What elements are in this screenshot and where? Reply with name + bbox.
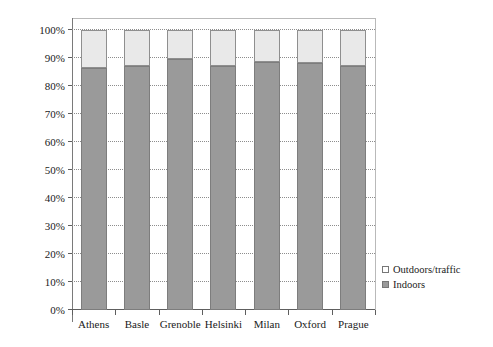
bar-segment-outdoors[interactable] [210,30,236,66]
legend-item-label: Outdoors/traffic [393,264,460,275]
y-axis-tick-label: 60% [45,136,65,148]
bar-segment-outdoors[interactable] [81,30,107,68]
legend-item[interactable]: Outdoors/traffic [382,262,460,277]
bar-segment-indoors[interactable] [340,66,366,310]
bar-segment-outdoors[interactable] [167,30,193,59]
bar-slot: Oxford [288,30,331,310]
stacked-bar[interactable] [340,30,366,310]
stacked-bar[interactable] [81,30,107,310]
y-axis-tick-label: 0% [50,304,65,316]
x-axis-tick-label: Athens [78,318,109,330]
bar-segment-outdoors[interactable] [340,30,366,66]
bar-segment-outdoors[interactable] [297,30,323,63]
y-axis-tick-label: 90% [45,52,65,64]
x-axis-tick-label: Basle [125,318,149,330]
stacked-bar[interactable] [167,30,193,310]
x-axis-tick-mark [288,310,289,315]
x-axis-tick-mark [72,310,73,315]
plot-area: 0%10%20%30%40%50%60%70%80%90%100% Athens… [72,30,375,310]
x-axis-tick-mark [375,310,376,315]
y-axis-tick-label: 50% [45,164,65,176]
x-axis-tick-mark [245,310,246,315]
bar-segment-indoors[interactable] [167,59,193,310]
x-axis-tick-label: Oxford [294,318,326,330]
x-axis-tick-mark [159,310,160,315]
bar-segment-indoors[interactable] [254,62,280,310]
y-axis-tick-label: 100% [39,24,65,36]
bar-slot: Helsinki [202,30,245,310]
x-axis-tick-mark [115,310,116,315]
bar-slot: Prague [332,30,375,310]
bar-segment-outdoors[interactable] [254,30,280,62]
y-axis-tick-label: 30% [45,220,65,232]
legend-swatch-icon [382,266,389,273]
bar-slot: Grenoble [159,30,202,310]
y-axis-tick-label: 70% [45,108,65,120]
x-axis-tick-mark [332,310,333,315]
y-axis-tick-label: 10% [45,276,65,288]
y-axis-title: Percentage of time [0,0,30,347]
bar-segment-indoors[interactable] [124,66,150,310]
x-axis-tick-label: Milan [254,318,280,330]
bar-segment-indoors[interactable] [81,68,107,310]
bar-slot: Milan [245,30,288,310]
x-axis-tick-label: Helsinki [205,318,242,330]
bar-slot: Athens [72,30,115,310]
x-axis-tick-label: Prague [338,318,369,330]
y-axis-tick-label: 20% [45,248,65,260]
legend-swatch-icon [382,281,389,288]
bar-segment-indoors[interactable] [297,63,323,310]
y-axis-tick-label: 40% [45,192,65,204]
legend-item-label: Indoors [393,279,425,290]
legend: Outdoors/trafficIndoors [382,262,460,292]
y-axis-tick-label: 80% [45,80,65,92]
bar-slot: Basle [115,30,158,310]
legend-item[interactable]: Indoors [382,277,460,292]
stacked-bar[interactable] [124,30,150,310]
x-axis-tick-label: Grenoble [160,318,201,330]
x-axis-tick-mark [202,310,203,315]
chart-screenshot: Percentage of time 0%10%20%30%40%50%60%7… [0,0,493,347]
stacked-bar[interactable] [254,30,280,310]
bar-segment-outdoors[interactable] [124,30,150,66]
bar-segment-indoors[interactable] [210,66,236,310]
stacked-bar[interactable] [210,30,236,310]
stacked-bar[interactable] [297,30,323,310]
